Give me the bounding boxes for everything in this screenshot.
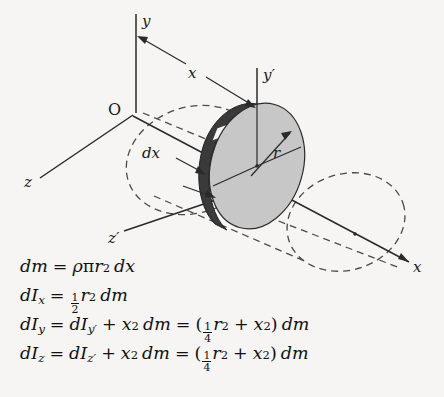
eq-dIz-lhs: dIz (20, 343, 44, 365)
eq-dIy-xexp: 2 (132, 319, 139, 333)
eq-dIy-equals-1: = (45, 314, 70, 334)
eq-dIz-equals-2: = (170, 343, 195, 363)
eq-dIz-x2exp: 2 (263, 348, 270, 362)
eq-dm-r: r (94, 256, 102, 276)
eq-dIz-dIzp: dIz′ (69, 343, 96, 365)
eq-dm-pi: π (83, 256, 95, 276)
eq-dIz-rparen: ) (270, 343, 277, 363)
eq-dm-equals: = (48, 256, 73, 276)
eq-dm-lhs: dm (20, 256, 48, 276)
eq-dIy-x: x (122, 314, 132, 334)
eq-dIy-equals-2: = (171, 314, 196, 334)
eq-dIy-plus: + (97, 314, 122, 334)
eq-dIy-lhs: dIy (20, 314, 45, 336)
eq-dIz-equals-1: = (44, 343, 69, 363)
eq-dIz-r: r (212, 343, 220, 363)
figure-page: y O z x y′ z′ (0, 0, 444, 397)
x-distance-dimension: x (137, 36, 256, 108)
eq-dIy-x2exp: 2 (263, 319, 270, 333)
eq-dIz-plus-2: + (228, 343, 253, 363)
eq-dIy-dIyp: dIy′ (70, 314, 98, 336)
eq-dIy-x2: x (254, 314, 264, 334)
equation-dIy: dIy = dIy′ + x 2 dm = ( 1 4 r 2 + x 2 ) … (20, 314, 430, 343)
eq-dIy-dm-1: dm (143, 314, 171, 334)
eq-dm-rho: ρ (72, 256, 82, 276)
origin-label: O (108, 100, 121, 119)
eq-dIy-rparen: ) (271, 314, 278, 334)
eq-dIy-dm-2: dm (282, 314, 310, 334)
eq-dm-exp: 2 (103, 261, 110, 275)
equation-block: dm = ρ π r 2 dx dIx = 1 2 r 2 dm dIy = d (20, 256, 430, 372)
eq-dIy-rexp: 2 (222, 319, 229, 333)
eq-dIz-lparen: ( (195, 343, 202, 363)
eq-dIz-x2: x (253, 343, 263, 363)
eq-dIy-r: r (213, 314, 221, 334)
eq-dm-dx: dx (114, 256, 135, 276)
equation-dIz: dIz = dIz′ + x 2 dm = ( 1 4 r 2 + x 2 ) … (20, 343, 430, 372)
axis-label-z-prime: z′ (107, 229, 120, 247)
eq-dIz-x: x (121, 343, 131, 363)
eq-dIy-numerator: 1 (203, 321, 212, 332)
axis-z: z (23, 115, 133, 191)
eq-dIx-equals: = (45, 285, 70, 305)
eq-dIy-denominator: 4 (203, 332, 212, 344)
eq-dIz-dm-2: dm (281, 343, 309, 363)
eq-dIx-dm: dm (100, 285, 128, 305)
eq-dIz-denominator: 4 (202, 361, 211, 373)
dx-label: dx (142, 144, 161, 162)
eq-dIz-xexp: 2 (131, 348, 138, 362)
eq-dIx-lhs: dIx (20, 285, 45, 307)
equation-dm: dm = ρ π r 2 dx (20, 256, 430, 285)
eq-dIy-plus-2: + (229, 314, 254, 334)
eq-dIy-fraction: 1 4 (203, 321, 212, 344)
eq-dIz-fraction: 1 4 (202, 350, 211, 373)
eq-dIz-plus: + (96, 343, 121, 363)
eq-dIz-dm-1: dm (142, 343, 170, 363)
axis-label-z: z (23, 173, 32, 191)
axis-y: y (136, 12, 151, 113)
axis-label-y: y (141, 12, 151, 30)
eq-dIx-fraction: 1 2 (71, 292, 80, 315)
eq-dIz-rexp: 2 (221, 348, 228, 362)
axis-label-y-prime: y′ (262, 66, 275, 84)
eq-dIx-r: r (80, 285, 88, 305)
eq-dIy-lparen: ( (195, 314, 202, 334)
eq-dIz-numerator: 1 (202, 350, 211, 361)
equation-dIx: dIx = 1 2 r 2 dm (20, 285, 430, 314)
eq-dIx-numerator: 1 (71, 292, 80, 303)
radius-label: r (273, 144, 281, 162)
eq-dIx-exp: 2 (89, 290, 96, 304)
x-distance-label: x (188, 64, 197, 82)
